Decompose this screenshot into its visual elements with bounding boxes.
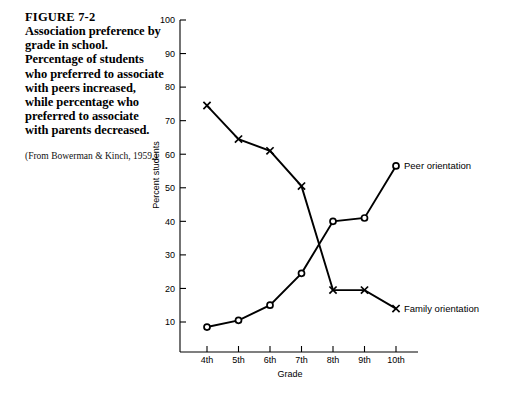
x-tick-label: 7th bbox=[295, 355, 308, 365]
x-tick-label: 10th bbox=[387, 355, 405, 365]
data-point-marker bbox=[267, 302, 273, 308]
figure-page: FIGURE 7-2 Association preference by gra… bbox=[0, 0, 506, 393]
x-tick-label: 9th bbox=[358, 355, 371, 365]
y-tick-label: 100 bbox=[160, 15, 175, 25]
series-inline-label: Family orientation bbox=[404, 303, 479, 314]
chart-canvas: 102030405060708090100 4th5th6th7th8th9th… bbox=[145, 0, 506, 393]
x-axis-title: Grade bbox=[277, 369, 302, 379]
data-point-marker bbox=[392, 305, 399, 312]
x-tick-label: 8th bbox=[327, 355, 340, 365]
data-point-marker bbox=[362, 215, 368, 221]
data-point-marker bbox=[236, 317, 242, 323]
y-tick-label: 20 bbox=[165, 284, 175, 294]
y-tick-label: 50 bbox=[165, 183, 175, 193]
y-tick-label: 70 bbox=[165, 116, 175, 126]
data-point-marker bbox=[393, 163, 399, 169]
y-tick-label: 40 bbox=[165, 217, 175, 227]
data-series-group bbox=[203, 102, 399, 330]
x-tick-label: 6th bbox=[264, 355, 277, 365]
x-tick-label: 4th bbox=[201, 355, 214, 365]
figure-caption-block: FIGURE 7-2 Association preference by gra… bbox=[25, 10, 165, 161]
data-point-marker bbox=[299, 270, 305, 276]
figure-caption-text: Association preference by grade in schoo… bbox=[25, 24, 165, 138]
y-tick-label: 80 bbox=[165, 82, 175, 92]
line-chart: 102030405060708090100 4th5th6th7th8th9th… bbox=[145, 0, 506, 393]
y-tick-label: 30 bbox=[165, 250, 175, 260]
y-tick-label: 90 bbox=[165, 49, 175, 59]
x-axis: 4th5th6th7th8th9th10th bbox=[180, 346, 418, 365]
y-tick-label: 60 bbox=[165, 150, 175, 160]
y-tick-label: 10 bbox=[165, 317, 175, 327]
data-point-marker bbox=[203, 102, 210, 109]
figure-number-label: FIGURE 7-2 bbox=[25, 10, 165, 24]
data-point-marker bbox=[204, 324, 210, 330]
y-axis-title: Percent students bbox=[151, 141, 161, 209]
series-label-group: Peer orientationFamily orientation bbox=[404, 160, 479, 314]
x-tick-label: 5th bbox=[232, 355, 245, 365]
data-point-marker bbox=[330, 218, 336, 224]
series-line bbox=[207, 166, 396, 327]
series-inline-label: Peer orientation bbox=[404, 160, 471, 171]
figure-source-credit: (From Bowerman & Kinch, 1959.) bbox=[25, 151, 165, 162]
y-axis: 102030405060708090100 bbox=[160, 15, 186, 352]
